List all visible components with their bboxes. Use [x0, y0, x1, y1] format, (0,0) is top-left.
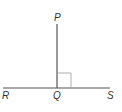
point-label-p: P: [54, 13, 61, 23]
point-label-s: S: [107, 91, 114, 101]
geometry-figure: [0, 0, 122, 112]
right-angle-marker: [57, 73, 71, 88]
point-label-r: R: [2, 91, 9, 101]
point-label-q: Q: [53, 91, 61, 101]
